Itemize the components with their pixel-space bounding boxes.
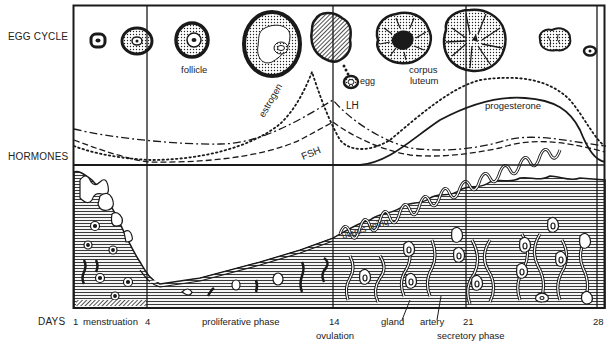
day-21-label: 21 <box>463 316 474 327</box>
artery-label: artery <box>420 316 444 327</box>
progesterone-label: progesterone <box>485 100 541 111</box>
new-follicle-icon <box>584 47 596 56</box>
menstruation-label: menstruation <box>83 316 138 327</box>
egg-label: egg <box>360 76 375 86</box>
corpus-luteum-icon <box>377 13 431 64</box>
estrogen-curve <box>74 72 605 160</box>
day-28-label: 28 <box>593 316 604 327</box>
corpus-luteum-label-line1: corpus <box>409 64 438 75</box>
egg-icon <box>344 76 358 88</box>
hormone-curves <box>74 72 605 165</box>
day-1-label: 1 <box>73 316 78 327</box>
proliferative-phase-label: proliferative phase <box>202 316 280 327</box>
corpus-luteum-label-line2: luteum <box>410 75 439 86</box>
primordial-follicle-icon <box>91 34 105 47</box>
secretory-phase-label: secretory phase <box>437 330 505 341</box>
lh-label: LH <box>346 100 359 111</box>
corpus-albicans-icon <box>540 28 571 50</box>
follicle-label: follicle <box>181 64 207 75</box>
mature-follicle-icon <box>244 12 300 76</box>
day-14-label: 14 <box>329 316 340 327</box>
fsh-label: FSH <box>300 144 323 162</box>
ovulation-label: ovulation <box>316 330 354 341</box>
uterus-lining-region <box>74 149 605 308</box>
secondary-follicle-icon <box>176 23 208 57</box>
estrogen-label: estrogen <box>256 81 284 119</box>
mature-corpus-luteum-icon <box>444 10 506 71</box>
menstrual-cycle-diagram: estrogen FSH uterus lining <box>0 0 611 343</box>
gland-label: gland <box>381 316 404 327</box>
egg-cycle-illustrations <box>91 10 596 88</box>
ruptured-follicle-icon <box>311 13 350 76</box>
day-4-label: 4 <box>145 316 150 327</box>
